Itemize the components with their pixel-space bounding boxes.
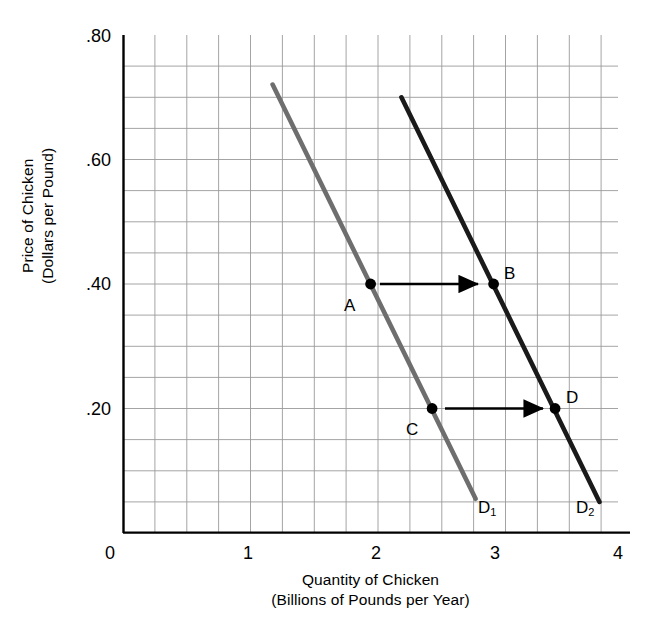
curve-label-d2-subscript: 2 — [588, 506, 594, 518]
curve-label-d2: D2 — [576, 498, 594, 518]
data-point-label-c: C — [406, 420, 418, 440]
data-point-a — [365, 279, 376, 290]
demand-shift-chart: Price of Chicken (Dollars per Pound) Qua… — [0, 0, 645, 639]
curve-label-d1: D1 — [478, 498, 496, 518]
plot-area — [0, 0, 645, 639]
curve-label-d1-text: D — [478, 498, 490, 517]
curve-label-d2-text: D — [576, 498, 588, 517]
data-point-label-b: B — [504, 264, 515, 284]
data-point-d — [550, 403, 561, 414]
demand-curve-d1 — [273, 85, 476, 499]
curve-label-d1-subscript: 1 — [490, 506, 496, 518]
data-point-label-d: D — [566, 388, 578, 408]
data-point-b — [488, 279, 499, 290]
data-point-c — [427, 403, 438, 414]
demand-curve-d2 — [401, 97, 599, 502]
data-point-label-a: A — [344, 296, 355, 316]
